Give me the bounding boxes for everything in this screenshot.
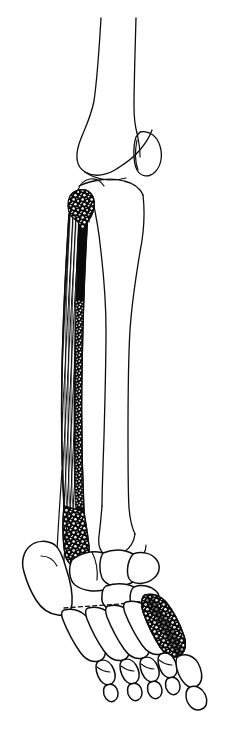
toe-3-distal-phalanx: [148, 681, 162, 698]
anatomical-figure: Lower limb skeleton, lateral oblique vie…: [0, 0, 230, 744]
toe-1-distal-phalanx: [104, 684, 118, 701]
toe-4-distal-phalanx: [166, 677, 180, 694]
skeleton-illustration: Lower limb skeleton, lateral oblique vie…: [0, 0, 230, 744]
toe-2-distal-phalanx: [128, 683, 142, 700]
